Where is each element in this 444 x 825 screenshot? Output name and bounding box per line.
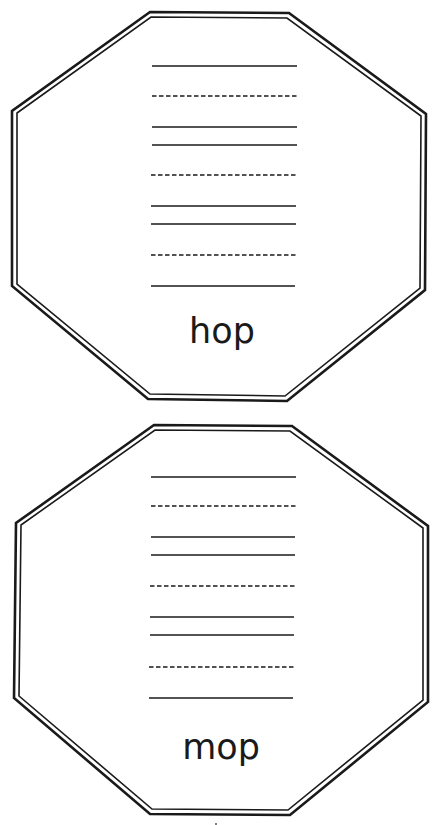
word-label: mop: [182, 727, 260, 767]
word-label: hop: [189, 311, 255, 351]
octagon-card-hop: hop: [12, 12, 426, 401]
octagon-card-mop: mop: [14, 425, 428, 815]
worksheet: hop mop: [0, 0, 444, 825]
